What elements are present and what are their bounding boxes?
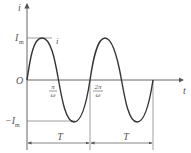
y-axis-label: i	[18, 2, 21, 13]
sine-waveform-diagram: i t O i I m −I m π ω 2π ω T T	[0, 0, 191, 153]
svg-text:π: π	[51, 83, 55, 91]
tick-pi-over-omega: π ω	[49, 83, 57, 99]
svg-text:2π: 2π	[94, 83, 102, 91]
x-axis-label: t	[183, 85, 186, 96]
period-label: T	[123, 131, 130, 142]
tick-2pi-over-omega: 2π ω	[93, 83, 103, 99]
origin-label: O	[16, 75, 23, 86]
period-label: T	[57, 131, 64, 142]
positive-peak-subscript: m	[19, 39, 24, 45]
negative-peak-subscript: m	[15, 122, 20, 128]
svg-text:ω: ω	[51, 91, 56, 99]
svg-text:ω: ω	[96, 91, 101, 99]
waveform-canvas: i t O i I m −I m π ω 2π ω T T	[0, 0, 191, 153]
curve-label: i	[56, 36, 59, 46]
